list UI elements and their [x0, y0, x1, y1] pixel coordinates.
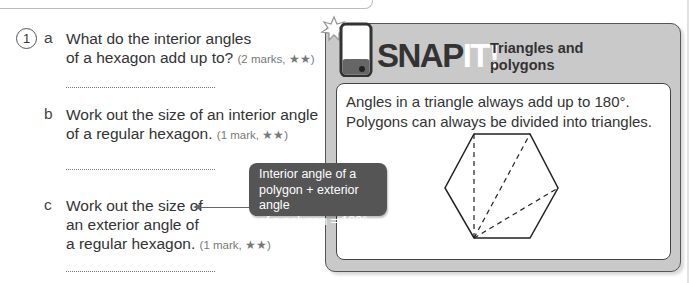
arrow-left-icon: [193, 204, 200, 210]
part-a-question: What do the interior angles of a hexagon…: [66, 29, 314, 69]
phone-icon: [320, 15, 380, 77]
answer-line-a[interactable]: [66, 87, 215, 88]
part-c-letter: c: [44, 196, 52, 214]
part-a-marks: (2 marks, ★★): [238, 53, 315, 65]
part-b-question: Work out the size of an interior angle o…: [66, 105, 318, 145]
part-b-letter: b: [44, 105, 53, 123]
top-divider: [0, 0, 373, 9]
part-a-letter: a: [44, 29, 53, 47]
callout-arrow-line: [197, 207, 250, 208]
answer-line-c[interactable]: [66, 271, 215, 272]
part-c-question: Work out the size of an exterior angle o…: [66, 196, 271, 255]
question-number: 1: [16, 28, 37, 49]
answer-line-b[interactable]: [66, 169, 215, 170]
hint-callout: Interior angle of a polygon + exterior a…: [249, 163, 387, 216]
snap-it-text: Angles in a triangle always add up to 18…: [346, 92, 652, 132]
hexagon-diagram: [440, 130, 560, 240]
snap-it-logo: SNAPIT!: [377, 37, 499, 75]
snap-it-subtitle: Triangles and polygons: [490, 40, 583, 74]
part-c-marks: (1 mark, ★★): [200, 239, 271, 251]
part-b-marks: (1 mark, ★★): [217, 129, 288, 141]
